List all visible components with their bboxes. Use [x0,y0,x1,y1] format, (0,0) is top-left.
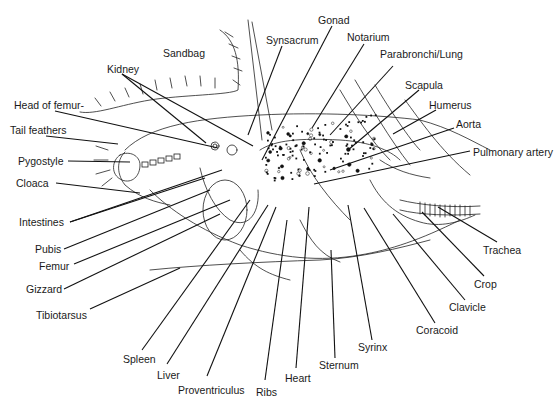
leader-cloaca [56,183,140,193]
leader-clavicle [393,214,465,300]
label-femur: Femur [39,260,69,272]
label-gonad: Gonad [318,14,350,26]
lung-stipple [265,114,377,181]
leader-crop [422,212,484,276]
leader-head-of-femur [55,111,218,148]
leader-sternum [331,250,335,358]
label-proventriculus: Proventriculus [178,384,245,396]
label-gizzard: Gizzard [26,283,62,295]
label-syrinx: Syrinx [358,341,387,353]
leader-intestines-secondary [70,170,222,222]
label-tail-feathers: Tail feathers [10,124,67,136]
label-pubis: Pubis [35,243,61,255]
label-scapula: Scapula [405,79,443,91]
label-intestines: Intestines [19,216,64,228]
leader-humerus [393,110,436,134]
sandbag-outline [80,20,272,140]
tail-outline [94,146,180,186]
leader-coracoid [364,208,435,323]
label-spleen: Spleen [123,353,156,365]
label-heart: Heart [285,372,311,384]
label-humerus: Humerus [429,99,472,111]
bird-anatomy-drawing [0,0,560,401]
label-liver: Liver [157,369,180,381]
leader-tail-feathers [46,136,118,144]
label-notarium: Notarium [347,31,390,43]
label-sandbag: Sandbag [163,47,205,59]
leader-syrinx [348,205,372,340]
leader-liver [167,205,268,364]
label-cloaca: Cloaca [16,177,49,189]
label-kidney: Kidney [107,63,139,75]
leader-tibiotarsus [90,268,180,309]
leader-gizzard [64,214,220,289]
leader-spleen [142,200,250,350]
leader-femur [74,200,230,264]
label-aorta: Aorta [456,118,481,130]
leader-kidney [122,74,206,143]
label-synsacrum: Synsacrum [266,34,319,46]
label-pygostyle: Pygostyle [18,155,64,167]
leader-proventriculus [207,207,276,376]
leader-notarium [312,44,364,128]
label-sternum: Sternum [319,359,359,371]
leader-pygostyle [68,161,130,162]
label-coracoid: Coracoid [416,324,458,336]
label-ribs: Ribs [256,386,277,398]
hip-joint [211,142,237,155]
leader-kidney-secondary [122,74,253,146]
label-parabronchi-lung: Parabronchi/Lung [380,48,463,60]
leader-trachea [438,207,497,242]
label-pulmonary-artery: Pulmonary artery [473,146,553,158]
leader-ribs [265,220,287,380]
label-crop: Crop [474,278,497,290]
label-tibiotarsus: Tibiotarsus [36,309,87,321]
leader-heart [296,207,309,368]
leader-synsacrum [248,46,282,135]
label-head-of-femur: Head of femur- [14,99,84,111]
label-trachea: Trachea [483,244,521,256]
label-clavicle: Clavicle [449,301,486,313]
